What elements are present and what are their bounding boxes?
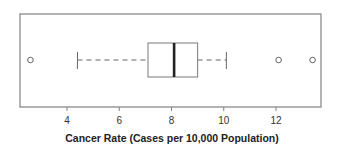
x-tick-label: 6 [116, 115, 122, 126]
x-tick-label: 8 [169, 115, 175, 126]
boxplot-layer [28, 43, 316, 77]
x-axis-title: Cancer Rate (Cases per 10,000 Population… [65, 132, 279, 144]
x-tick-label: 10 [218, 115, 230, 126]
iqr-box [148, 43, 198, 77]
x-axis: 4681012 [64, 107, 282, 126]
x-tick-label: 4 [64, 115, 70, 126]
outlier-point [276, 57, 282, 63]
outlier-point [28, 57, 34, 63]
boxplot-chart: 4681012 Cancer Rate (Cases per 10,000 Po… [0, 0, 339, 151]
x-tick-label: 12 [270, 115, 282, 126]
outlier-point [310, 57, 316, 63]
